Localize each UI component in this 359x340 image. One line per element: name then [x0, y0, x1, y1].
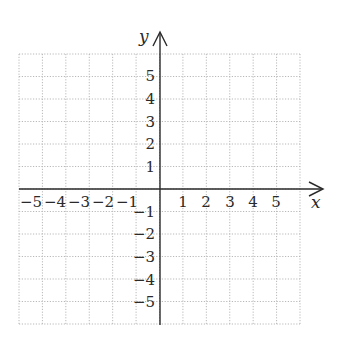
- y-tick-label: −3: [133, 248, 155, 266]
- x-tick-label: −2: [92, 193, 114, 211]
- x-tick-label: 3: [225, 193, 235, 211]
- y-tick-label: −2: [133, 225, 155, 243]
- y-tick-label: 2: [145, 135, 155, 153]
- x-tick-labels-positive: 1 2 3 4 5: [178, 193, 281, 211]
- x-tick-labels-negative: −5 −4 −3 −2 −1: [20, 193, 138, 211]
- x-tick-label: 2: [201, 193, 211, 211]
- x-tick-label: −3: [68, 193, 90, 211]
- x-tick-label: 1: [178, 193, 188, 211]
- x-tick-label: −5: [20, 193, 42, 211]
- y-tick-label: 3: [145, 113, 155, 131]
- y-tick-label: 5: [145, 67, 155, 85]
- y-tick-label: −5: [133, 293, 155, 311]
- x-tick-label: −4: [44, 193, 66, 211]
- y-tick-label: 1: [145, 158, 155, 176]
- y-axis-label: y: [138, 26, 149, 46]
- x-axis-label: x: [311, 192, 321, 212]
- coordinate-plane: x y −5 −4 −3 −2 −1 1 2 3 4 5 5 4 3 2 1 −…: [0, 0, 359, 340]
- x-tick-label: 4: [248, 193, 258, 211]
- y-tick-label: −1: [133, 203, 155, 221]
- x-tick-label: 5: [271, 193, 281, 211]
- y-tick-label: 4: [145, 90, 155, 108]
- y-tick-label: −4: [133, 271, 155, 289]
